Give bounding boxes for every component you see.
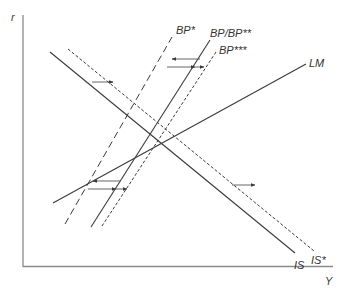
- x-axis-label: Y: [325, 275, 333, 287]
- y-axis-label: r: [11, 11, 16, 23]
- bp-triple-star-curve: BP***: [102, 44, 247, 226]
- lm-label: LM: [309, 57, 325, 69]
- bp-star-curve: BP*: [65, 24, 196, 224]
- is-label: IS: [294, 259, 305, 271]
- bp-label: BP/BP**: [210, 27, 252, 39]
- is-lm-bp-diagram: r Y IS IS* LM BP* BP/BP** BP***: [0, 0, 342, 290]
- bp-star-label: BP*: [176, 24, 196, 36]
- is-star-label: IS*: [311, 254, 326, 266]
- is-curve: IS: [50, 52, 305, 271]
- axes: r Y: [11, 11, 333, 287]
- bp-triple-star-label: BP***: [219, 44, 247, 56]
